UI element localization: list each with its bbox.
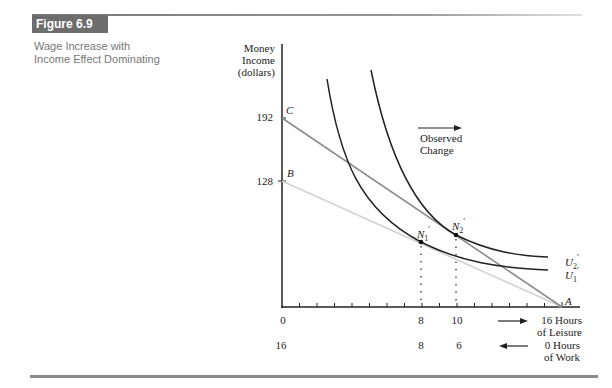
svg-text:16 Hours: 16 Hours [541,314,582,326]
label-b: B [287,167,294,179]
point-n1 [419,240,424,245]
svg-text:10: 10 [452,314,464,326]
arrow-right-icon [520,318,528,324]
svg-text:0: 0 [280,314,286,326]
svg-text:Observed: Observed [420,132,463,144]
svg-text:16: 16 [276,339,288,351]
svg-text:(dollars): (dollars) [238,66,276,79]
observed-change-annotation: Observed Change [418,125,463,156]
svg-text:Money: Money [244,42,276,54]
arrow-right-icon [454,125,462,131]
label-n2: N2′ [451,216,465,235]
svg-text:0 Hours: 0 Hours [545,339,580,351]
svg-text:Income: Income [242,54,275,66]
work-direction [499,343,528,349]
arrow-left-icon [499,343,507,349]
svg-text:8: 8 [418,339,424,351]
label-c: C [286,104,294,116]
svg-text:6: 6 [456,339,462,351]
x-tick-labels-leisure: 0 8 10 [280,314,463,326]
labor-leisure-chart: Money Income (dollars) 192 128 [0,0,612,388]
svg-text:8: 8 [418,314,424,326]
x-axis-label-work: 0 Hours of Work [544,339,580,363]
leisure-direction [498,318,528,324]
svg-text:192: 192 [257,111,274,123]
svg-text:of Leisure: of Leisure [537,326,582,338]
y-axis-label: Money Income (dollars) [238,42,276,79]
indifference-curve-u1 [327,79,548,270]
x-axis-label-leisure: 16 Hours of Leisure [537,314,582,338]
bottom-rule [30,375,598,378]
svg-text:128: 128 [257,175,274,187]
x-tick-labels-work: 16 8 6 [276,339,463,351]
svg-text:Change: Change [420,144,454,156]
point-n2 [454,233,459,238]
label-a: A [564,295,572,307]
svg-text:of Work: of Work [544,351,580,363]
y-tick-labels: 192 128 [257,111,274,187]
